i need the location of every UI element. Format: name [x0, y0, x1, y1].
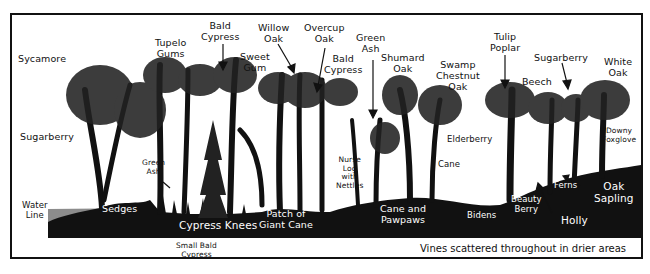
label-willow-oak: Willow Oak: [258, 22, 289, 44]
label-oak-sapling: Oak Sapling: [594, 180, 634, 204]
caption: Vines scattered throughout in drier area…: [420, 243, 626, 254]
label-tupelo-gums: Tupelo Gums: [155, 37, 186, 59]
label-overcup-oak: Overcup Oak: [304, 22, 345, 44]
label-white-oak: White Oak: [604, 56, 632, 78]
label-cane: Cane: [438, 160, 460, 169]
label-swamp-chestnut-oak: Swamp Chestnut Oak: [436, 59, 480, 92]
label-water-line: Water Line: [22, 200, 48, 220]
label-shumard-oak: Shumard Oak: [381, 52, 425, 74]
label-cane-pawpaws: Cane and Pawpaws: [380, 203, 426, 225]
label-sugarberry-left: Sugarberry: [20, 131, 74, 142]
label-sycamore: Sycamore: [18, 53, 66, 64]
label-green-ash-top: Green Ash: [356, 32, 385, 54]
label-sedges: Sedges: [102, 203, 137, 214]
label-nurse-log: Nurse Log with Nettles: [336, 156, 363, 190]
label-beauty-berry: Beauty Berry: [511, 194, 542, 214]
label-small-bald-cypress: Small Bald Cypress: [176, 242, 217, 259]
label-cypress-knees: Cypress Knees: [179, 219, 257, 231]
label-bald-cypress-2: Bald Cypress: [324, 53, 362, 75]
label-holly: Holly: [561, 214, 588, 226]
label-sugarberry-right: Sugarberry: [534, 52, 588, 63]
label-bald-cypress-1: Bald Cypress: [201, 20, 239, 42]
label-sweet-gum: Sweet Gum: [240, 51, 270, 73]
label-tulip-poplar: Tulip Poplar: [490, 31, 520, 53]
label-ferns: Ferns: [554, 180, 577, 191]
label-bidens: Bidens: [467, 210, 496, 221]
label-green-ash-small: Green Ash: [142, 159, 165, 176]
label-downy-foxglove: Downy Foxglove: [602, 127, 636, 144]
label-giant-cane: Patch of Giant Cane: [259, 208, 313, 230]
label-elderberry: Elderberry: [447, 135, 492, 144]
label-beech: Beech: [522, 76, 552, 87]
